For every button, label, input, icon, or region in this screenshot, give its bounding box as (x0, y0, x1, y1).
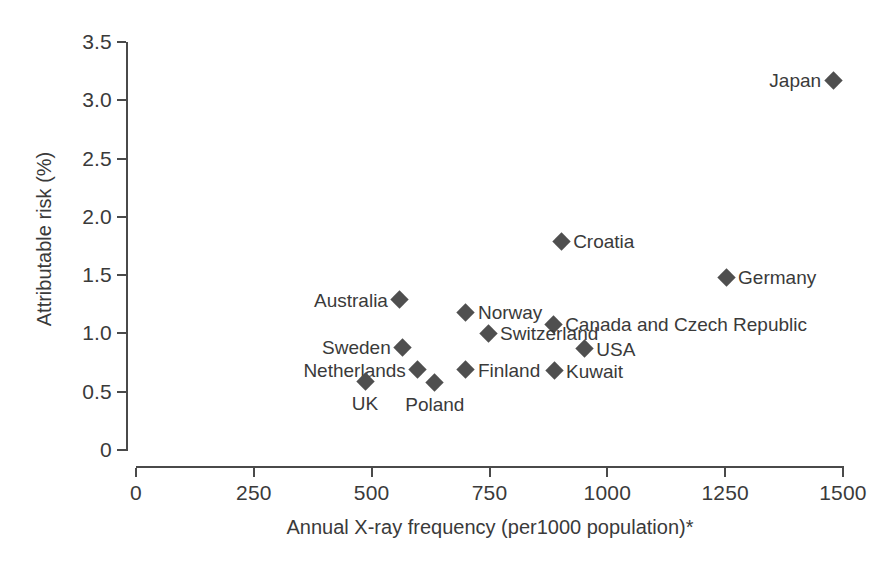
x-tick-label: 750 (472, 482, 508, 503)
data-point-label: Norway (478, 303, 542, 322)
y-tick-mark (117, 332, 126, 334)
data-point-label: Finland (478, 361, 540, 380)
x-tick-mark (606, 468, 608, 477)
data-point-label: UK (352, 394, 378, 413)
x-tick-label: 0 (130, 482, 142, 503)
y-tick-label-text: 0 (42, 439, 112, 460)
data-point-label: Germany (738, 268, 816, 287)
diamond-marker-icon (552, 232, 570, 250)
x-tick-mark (489, 468, 491, 477)
x-tick-mark (724, 468, 726, 477)
scatter-chart: 00.51.01.52.02.53.03.5 02505007501000125… (0, 0, 893, 570)
x-tick-label: 1500 (819, 482, 867, 503)
x-tick-mark (253, 468, 255, 477)
data-point-label: Australia (314, 291, 388, 310)
data-point-label: Kuwait (566, 362, 623, 381)
diamond-marker-icon (391, 290, 409, 308)
diamond-marker-icon (457, 303, 475, 321)
y-tick-label: 0 (28, 439, 112, 460)
diamond-marker-icon (426, 373, 444, 391)
y-tick-label-text: 3.5 (42, 31, 112, 52)
y-tick-mark (117, 99, 126, 101)
x-tick-mark (842, 468, 844, 477)
diamond-marker-icon (457, 360, 475, 378)
x-tick-mark (371, 468, 373, 477)
data-point-label: Japan (769, 71, 821, 90)
diamond-marker-icon (409, 360, 427, 378)
data-point-label: USA (596, 340, 635, 359)
diamond-marker-icon (479, 324, 497, 342)
data-point-label: Croatia (573, 232, 634, 251)
diamond-marker-icon (717, 268, 735, 286)
y-tick-mark (117, 158, 126, 160)
y-axis-title: Attributable risk (%) (34, 74, 54, 404)
x-tick-label: 1250 (701, 482, 749, 503)
y-tick-mark (117, 41, 126, 43)
y-tick-mark (117, 449, 126, 451)
y-tick-mark (117, 274, 126, 276)
x-tick-label: 1000 (584, 482, 632, 503)
y-axis-line (126, 42, 128, 451)
diamond-marker-icon (824, 71, 842, 89)
y-tick-mark (117, 216, 126, 218)
data-point-label: Poland (405, 395, 464, 414)
data-point-label: Netherlands (303, 361, 405, 380)
diamond-marker-icon (545, 362, 563, 380)
x-axis-title: Annual X-ray frequency (per1000 populati… (136, 517, 844, 537)
data-point-label: Canada and Czech Republic (565, 315, 807, 334)
y-tick-mark (117, 391, 126, 393)
x-tick-label: 250 (236, 482, 272, 503)
data-point-label: Sweden (322, 338, 391, 357)
x-tick-mark (135, 468, 137, 477)
y-tick-label: 3.5 (28, 31, 112, 52)
x-tick-label: 500 (354, 482, 390, 503)
diamond-marker-icon (394, 338, 412, 356)
